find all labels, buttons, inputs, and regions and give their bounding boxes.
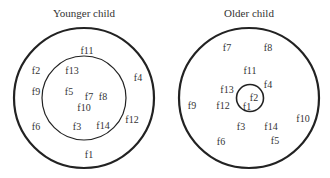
diagram-canvas: Younger child f11f2f13f4f9f5f7f8f10f12f6… <box>0 0 330 178</box>
factor-label: f6 <box>217 136 225 147</box>
panel-older-child: Older child f7f8f11f4f13f2f9f12f1f10f3f1… <box>179 7 319 168</box>
factor-label: f13 <box>220 84 233 95</box>
factor-label: f10 <box>296 113 309 124</box>
factor-label: f4 <box>134 72 142 83</box>
factor-label: f2 <box>32 65 40 76</box>
factor-label: f5 <box>65 86 73 97</box>
factor-label: f12 <box>125 114 138 125</box>
factor-label: f8 <box>99 91 107 102</box>
factor-label: f13 <box>65 65 78 76</box>
factor-label: f7 <box>85 91 93 102</box>
panel-title: Younger child <box>53 7 116 19</box>
factor-label: f11 <box>244 65 257 76</box>
factor-label: f12 <box>216 100 229 111</box>
factor-label: f6 <box>32 121 40 132</box>
factor-label: f11 <box>81 45 94 56</box>
factor-label: f7 <box>223 42 231 53</box>
factor-label: f3 <box>73 121 81 132</box>
factor-label: f14 <box>264 121 277 132</box>
factor-label: f14 <box>96 120 109 131</box>
factor-label: f5 <box>271 135 279 146</box>
panel-title: Older child <box>224 7 274 19</box>
factor-label: f4 <box>264 79 272 90</box>
factor-label: f10 <box>77 102 90 113</box>
factor-label: f9 <box>188 100 196 111</box>
factor-label: f3 <box>237 121 245 132</box>
factor-label: f9 <box>32 86 40 97</box>
factor-label: f1 <box>85 149 93 160</box>
factor-label: f1 <box>243 101 251 112</box>
panel-younger-child: Younger child f11f2f13f4f9f5f7f8f10f12f6… <box>14 7 154 168</box>
factor-label: f8 <box>264 42 272 53</box>
